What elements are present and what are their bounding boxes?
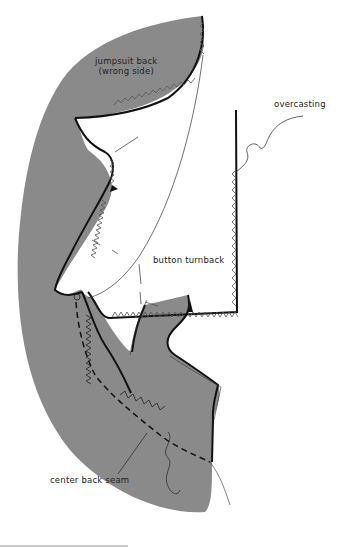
jumpsuit-back-label-line2: (wrong side) bbox=[95, 66, 157, 76]
dash-marks bbox=[92, 240, 141, 304]
jumpsuit-back-label: jumpsuit back (wrong side) bbox=[95, 56, 157, 76]
inner-line bbox=[115, 137, 138, 152]
sewing-diagram bbox=[0, 0, 342, 547]
button-turnback-label: button turnback bbox=[153, 255, 224, 265]
overcasting-thread bbox=[236, 116, 303, 172]
button-turnback-outline bbox=[88, 110, 237, 318]
overcasting-label: overcasting bbox=[274, 99, 326, 109]
jumpsuit-back-label-line1: jumpsuit back bbox=[95, 56, 157, 66]
center-back-seam-label: center back seam bbox=[50, 475, 129, 485]
